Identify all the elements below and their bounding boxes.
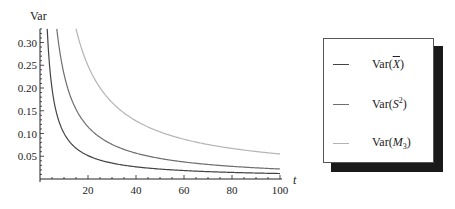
legend-swatch-var-xbar [333, 64, 349, 65]
y-tick-label: 0.05 [18, 150, 38, 162]
x-tick-label: 60 [179, 184, 191, 196]
series-line-2 [76, 29, 280, 154]
legend-label-var-xbar: Var(X) [372, 57, 404, 72]
legend-swatch-var-s2 [333, 104, 349, 105]
legend-item-var-s2: Var(S2) [324, 95, 433, 113]
y-tick-label: 0.15 [18, 105, 38, 117]
y-tick-label: 0.30 [18, 37, 38, 49]
curves [47, 29, 280, 174]
x-tick-label: 40 [131, 184, 143, 196]
y-tick-label: 0.25 [18, 59, 38, 71]
legend-item-var-xbar: Var(X) [324, 55, 433, 73]
legend: Var(X) Var(S2) Var(M3) [323, 38, 434, 163]
legend-label-var-s2: Var(S2) [372, 96, 407, 112]
legend-label-var-m3: Var(M3) [372, 135, 411, 151]
x-tick-label: 20 [83, 184, 95, 196]
series-line-1 [57, 29, 280, 169]
y-tick-label: 0.10 [18, 128, 38, 140]
axes: 204060801000.050.100.150.200.250.30 [18, 29, 289, 196]
x-tick-label: 100 [272, 184, 289, 196]
y-axis-title: Var [30, 9, 47, 23]
y-tick-label: 0.20 [18, 82, 38, 94]
legend-swatch-var-m3 [333, 143, 349, 144]
x-tick-label: 80 [227, 184, 239, 196]
legend-item-var-m3: Var(M3) [324, 134, 433, 152]
x-axis-title: t [293, 173, 297, 187]
